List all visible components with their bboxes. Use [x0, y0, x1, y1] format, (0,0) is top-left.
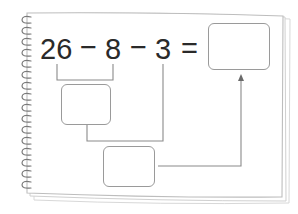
- result-answer-box[interactable]: [208, 23, 270, 70]
- minus-sign: −: [80, 33, 97, 62]
- minus-sign: −: [130, 33, 147, 62]
- notebook-worksheet: 26 − 8 − 3 =: [0, 0, 298, 214]
- number-8: 8: [105, 35, 121, 64]
- equals-sign: =: [181, 34, 198, 63]
- step2-answer-box[interactable]: [103, 146, 155, 187]
- step1-answer-box[interactable]: [61, 84, 111, 125]
- number-26: 26: [40, 35, 72, 64]
- number-3: 3: [155, 35, 171, 64]
